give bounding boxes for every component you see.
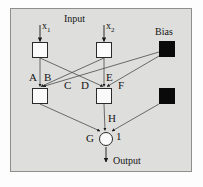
label-bias: Bias — [155, 27, 173, 37]
node-hidden-1[interactable] — [32, 88, 48, 104]
label-weight-b: B — [44, 72, 51, 83]
node-output[interactable] — [99, 132, 113, 146]
label-x2-subscript: 2 — [111, 26, 115, 34]
label-x2: x2 — [106, 21, 115, 34]
label-weight-e: E — [106, 72, 113, 83]
edge-hidden2-output — [104, 104, 105, 131]
label-weight-one: 1 — [116, 131, 122, 142]
label-weight-g: G — [86, 133, 94, 144]
edge-biasbottom-output — [112, 104, 159, 131]
node-input-1[interactable] — [32, 42, 48, 58]
label-weight-c: C — [64, 80, 71, 91]
node-hidden-2[interactable] — [96, 88, 112, 104]
label-weight-d: D — [81, 80, 89, 91]
diagram-canvas: Input x1 x2 Bias A B C D E F H G 1 Outpu… — [0, 0, 203, 187]
label-weight-a: A — [29, 72, 37, 83]
node-input-2[interactable] — [96, 42, 112, 58]
label-output: Output — [113, 156, 141, 166]
label-input: Input — [64, 14, 85, 24]
node-bias-top[interactable] — [159, 41, 175, 57]
edge-biastop-hidden2 — [107, 56, 159, 87]
edge-hidden1-output — [40, 104, 100, 131]
node-bias-bottom[interactable] — [159, 88, 175, 104]
label-weight-h: H — [108, 113, 116, 124]
label-x1: x1 — [42, 21, 51, 34]
label-x1-subscript: 1 — [47, 26, 51, 34]
label-weight-f: F — [118, 80, 124, 91]
